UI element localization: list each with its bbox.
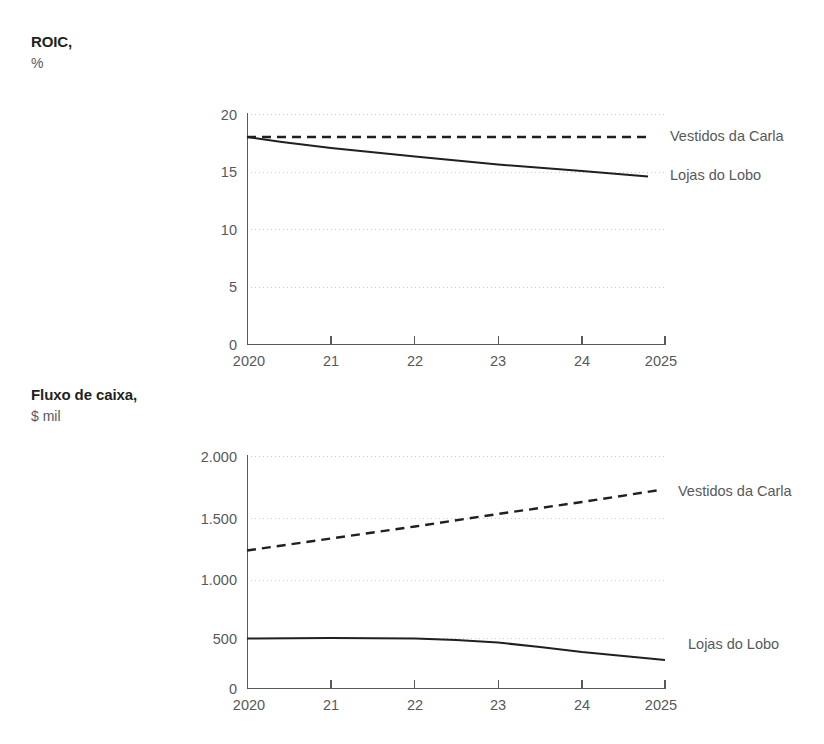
y-tick-label: 2.000: [201, 449, 237, 465]
x-tick-label: 2020: [233, 353, 265, 369]
x-tick-label: 23: [490, 353, 506, 369]
x-tick-label: 2025: [645, 353, 677, 369]
y-tick-label: 10: [221, 222, 237, 238]
series-line-lojas-do-lobo: [247, 638, 665, 660]
series-label-lojas-do-lobo: Lojas do Lobo: [670, 167, 761, 183]
x-tick-label: 21: [323, 353, 339, 369]
x-tick-label: 24: [574, 353, 590, 369]
x-tick-label: 24: [574, 697, 590, 713]
series-line-lojas-do-lobo: [247, 137, 648, 177]
y-tick-label: 1.500: [201, 511, 237, 527]
y-tick-label: 20: [221, 107, 237, 123]
series-label-vestidos-da-carla: Vestidos da Carla: [678, 483, 793, 499]
x-tick-label: 2020: [233, 697, 265, 713]
x-tick-marks: [248, 336, 666, 345]
series-line-vestidos-da-carla: [247, 490, 660, 551]
y-tick-labels: 2.000 1.500 1.000 500 0: [201, 449, 237, 697]
series-label-vestidos-da-carla: Vestidos da Carla: [670, 128, 785, 144]
y-tick-label: 1.000: [201, 572, 237, 588]
x-tick-label: 21: [323, 697, 339, 713]
y-tick-labels: 20 15 10 5 0: [221, 107, 237, 353]
chart-panel-roic: ROIC, %: [0, 0, 824, 375]
gridlines: [247, 115, 665, 288]
series-label-lojas-do-lobo: Lojas do Lobo: [688, 636, 779, 652]
plot-area-roic: 20 15 10 5 0 2020 21 22 23 24 2025 Vesti…: [0, 0, 824, 375]
y-tick-label: 0: [229, 337, 237, 353]
x-tick-labels: 2020 21 22 23 24 2025: [233, 353, 677, 369]
plot-area-fluxo-de-caixa: 2.000 1.500 1.000 500 0 2020 21 22 23 24…: [0, 375, 824, 744]
x-tick-marks: [248, 680, 666, 689]
chart-panel-fluxo-de-caixa: Fluxo de caixa, $ mil: [0, 375, 824, 744]
roic-line-chart: 20 15 10 5 0 2020 21 22 23 24 2025 Vesti…: [0, 0, 824, 375]
x-tick-label: 23: [490, 697, 506, 713]
x-tick-labels: 2020 21 22 23 24 2025: [233, 697, 677, 713]
x-tick-label: 22: [407, 697, 423, 713]
x-tick-label: 2025: [645, 697, 677, 713]
y-tick-label: 500: [213, 631, 237, 647]
fluxo-de-caixa-line-chart: 2.000 1.500 1.000 500 0 2020 21 22 23 24…: [0, 375, 824, 744]
x-tick-label: 22: [407, 353, 423, 369]
y-tick-label: 0: [229, 681, 237, 697]
y-tick-label: 5: [229, 279, 237, 295]
y-tick-label: 15: [221, 164, 237, 180]
gridlines: [247, 457, 665, 639]
